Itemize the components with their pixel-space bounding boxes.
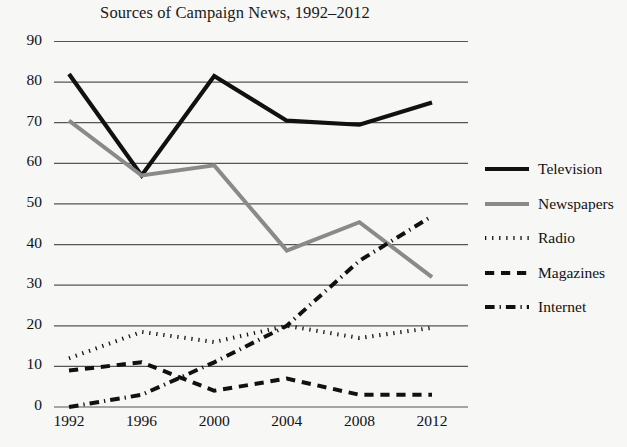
legend-label: Internet	[538, 298, 586, 316]
legend-item-magazines[interactable]: Magazines	[484, 256, 627, 291]
gridlines	[54, 42, 468, 408]
legend-swatch-magazines	[484, 266, 530, 280]
y-tick-label: 50	[8, 193, 42, 211]
y-tick-label: 10	[8, 355, 42, 373]
x-tick-label: 2000	[184, 412, 244, 430]
legend-label: Magazines	[538, 264, 605, 282]
series-lines	[69, 74, 432, 407]
y-tick-label: 0	[8, 396, 42, 414]
legend-label: Television	[538, 160, 602, 178]
series-line-newspapers	[69, 121, 432, 277]
legend-item-radio[interactable]: Radio	[484, 221, 627, 256]
legend-swatch-television	[484, 162, 530, 176]
legend-swatch-newspapers	[484, 197, 530, 211]
y-tick-label: 20	[8, 315, 42, 333]
y-tick-label: 90	[8, 31, 42, 49]
legend-item-television[interactable]: Television	[484, 152, 627, 187]
x-tick-label: 2008	[329, 412, 389, 430]
legend-label: Newspapers	[538, 195, 614, 213]
y-tick-label: 60	[8, 152, 42, 170]
x-tick-label: 1996	[112, 412, 172, 430]
x-tick-label: 2012	[402, 412, 462, 430]
y-tick-label: 70	[8, 112, 42, 130]
legend-swatch-radio	[484, 231, 530, 245]
chart-figure: Sources of Campaign News, 1992–2012 0102…	[0, 0, 627, 447]
y-tick-label: 30	[8, 274, 42, 292]
x-tick-label: 1992	[39, 412, 99, 430]
legend-swatch-internet	[484, 300, 530, 314]
legend-item-internet[interactable]: Internet	[484, 290, 627, 325]
chart-legend: TelevisionNewspapersRadioMagazinesIntern…	[484, 152, 627, 325]
legend-label: Radio	[538, 229, 575, 247]
y-tick-label: 80	[8, 71, 42, 89]
series-line-magazines	[69, 362, 432, 394]
legend-item-newspapers[interactable]: Newspapers	[484, 187, 627, 222]
y-tick-label: 40	[8, 234, 42, 252]
x-tick-label: 2004	[257, 412, 317, 430]
